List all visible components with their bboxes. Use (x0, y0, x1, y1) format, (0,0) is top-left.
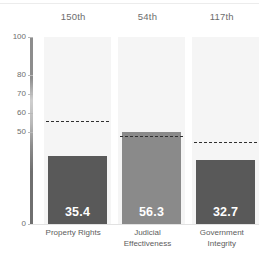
column-property-rights: 35.4 (44, 37, 111, 224)
category-label-government-integrity: Government Integrity (185, 228, 259, 258)
y-axis-tick-60: 60 (0, 108, 36, 118)
bar-value-property-rights: 35.4 (48, 205, 107, 219)
category-label-row: Property Rights Judicial Effectiveness G… (36, 228, 259, 258)
y-axis-tick-label: 80 (17, 70, 26, 80)
reference-line-government-integrity (194, 142, 257, 143)
bar-judicial-effectiveness[interactable]: 56.3 (122, 132, 181, 224)
y-axis-tick-mark (28, 132, 33, 133)
y-axis-tick-label: 0 (22, 219, 26, 229)
y-axis-tick-label: 60 (17, 108, 26, 118)
rank-label-government-integrity: 117th (185, 9, 259, 25)
y-axis-tick-50: 50 (0, 127, 36, 137)
y-axis-tick-mark (28, 75, 33, 76)
bar-chart: 150th 54th 117th 100807060500 35.4 56.3 … (0, 0, 259, 260)
y-axis-tick-mark (28, 94, 33, 95)
reference-line-judicial-effectiveness (120, 136, 183, 137)
rank-label-row: 150th 54th 117th (36, 9, 259, 25)
bar-property-rights[interactable]: 35.4 (48, 156, 107, 224)
y-axis-tick-label: 70 (17, 89, 26, 99)
category-label-judicial-effectiveness: Judicial Effectiveness (110, 228, 184, 258)
bar-value-judicial-effectiveness: 56.3 (122, 205, 181, 219)
y-axis-tick-mark (28, 37, 33, 38)
reference-line-property-rights (46, 121, 109, 122)
y-axis-tick-80: 80 (0, 70, 36, 80)
column-government-integrity: 32.7 (192, 37, 259, 224)
bar-government-integrity[interactable]: 32.7 (196, 160, 255, 224)
category-label-property-rights: Property Rights (36, 228, 110, 258)
top-divider (0, 3, 259, 4)
y-axis-tick-100: 100 (0, 32, 36, 42)
y-axis-tick-label: 100 (13, 32, 26, 42)
plot-area: 35.4 56.3 32.7 (36, 37, 259, 224)
y-axis-tick-70: 70 (0, 89, 36, 99)
y-axis-tick-label: 50 (17, 127, 26, 137)
x-axis-baseline (30, 224, 259, 225)
rank-label-property-rights: 150th (36, 9, 110, 25)
column-judicial-effectiveness: 56.3 (118, 37, 185, 224)
rank-label-judicial-effectiveness: 54th (110, 9, 184, 25)
bar-value-government-integrity: 32.7 (196, 205, 255, 219)
y-axis-tick-mark (28, 113, 33, 114)
